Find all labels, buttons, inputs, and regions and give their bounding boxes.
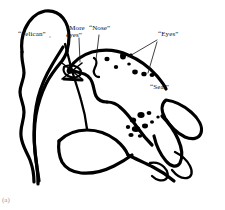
eye-spot <box>150 73 155 77</box>
body-spot <box>156 116 159 119</box>
eye-spot <box>141 72 146 77</box>
eye-spot <box>127 62 131 65</box>
label-nose: “Nose” <box>89 25 110 33</box>
figure-caption-mark: (a) <box>2 196 10 204</box>
label-more-eyes: “More eyes” <box>66 25 90 39</box>
body-spot <box>138 134 142 138</box>
label-eyes: “Eyes” <box>158 31 178 39</box>
label-pelican: “Pelican” <box>18 31 46 39</box>
seal-flipper-upper <box>162 100 201 139</box>
figure-canvas: “Pelican” “More eyes” “Nose” “Eyes” “Sea… <box>0 0 225 210</box>
body-spot <box>132 126 140 132</box>
eye-spot <box>104 57 109 61</box>
seal-belly-outline <box>59 130 128 155</box>
pelican-pupil-blob <box>67 68 74 74</box>
body-spot <box>128 133 133 137</box>
eye-spot <box>120 52 126 59</box>
body-spot <box>150 120 154 123</box>
leader-line-eyes-a <box>128 40 157 57</box>
body-spot <box>142 124 148 129</box>
leader-line-nose <box>96 35 99 60</box>
eye-spot <box>132 70 138 75</box>
seal-flipper-lower <box>154 116 182 166</box>
leader-line-eyes-b <box>148 42 157 73</box>
body-spot <box>147 111 152 115</box>
seal-nose-curl <box>94 58 99 77</box>
label-seal: “Seal” <box>150 84 169 92</box>
body-spot <box>137 112 144 118</box>
body-spot <box>130 117 136 122</box>
pelican-eye-underline <box>64 79 82 80</box>
pelican-left-flank <box>20 52 34 182</box>
body-spot <box>126 125 130 129</box>
eye-spot <box>114 65 118 69</box>
